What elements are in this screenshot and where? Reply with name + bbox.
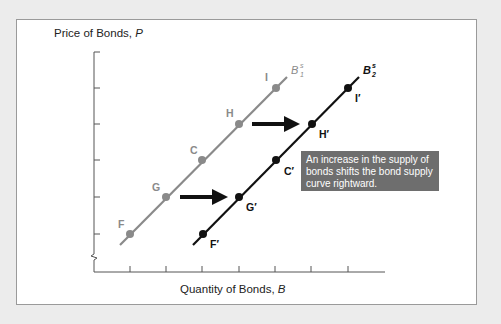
label-H-prime: H′ <box>319 128 330 140</box>
y-ticks <box>94 88 100 234</box>
curve-label-b2: B s 2 <box>363 62 376 78</box>
point-F-prime <box>199 230 207 238</box>
label-I: I <box>265 71 268 83</box>
label-F: F <box>118 218 125 230</box>
point-H <box>235 120 243 128</box>
annotation-box: An increase in the supply of bonds shift… <box>301 151 439 191</box>
point-H-prime <box>308 120 316 128</box>
label-F-prime: F′ <box>210 238 219 250</box>
svg-text:1: 1 <box>300 71 304 78</box>
supply-curve-b1 <box>120 77 287 245</box>
label-C-prime: C′ <box>284 165 295 177</box>
svg-text:s: s <box>300 62 304 69</box>
point-C <box>198 156 206 164</box>
point-I <box>272 84 280 92</box>
point-G-prime <box>235 193 243 201</box>
x-ticks <box>130 266 348 272</box>
svg-text:B: B <box>291 64 298 76</box>
curve-label-b1: B s 1 <box>291 62 304 78</box>
label-I-prime: I′ <box>355 92 361 104</box>
point-F <box>126 230 134 238</box>
point-C-prime <box>272 156 280 164</box>
point-G <box>162 193 170 201</box>
point-I-prime <box>344 84 352 92</box>
label-G: G <box>152 181 160 193</box>
svg-text:s: s <box>372 62 376 69</box>
svg-text:2: 2 <box>371 71 376 78</box>
svg-text:B: B <box>363 64 371 76</box>
label-H: H <box>226 107 234 119</box>
label-G-prime: G′ <box>246 201 257 213</box>
label-C: C <box>190 144 198 156</box>
